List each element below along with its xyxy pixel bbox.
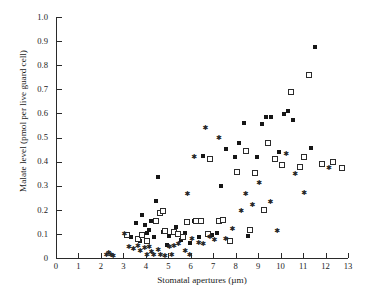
y-axis-title: Malate level (pmol per live guard cell) <box>18 16 28 226</box>
y-tick-label: 0 <box>22 254 48 263</box>
x-tick-mark <box>348 253 349 258</box>
x-tick-mark <box>78 253 79 258</box>
data-point-open-square <box>279 162 285 168</box>
data-point-star: ✱ <box>200 241 207 248</box>
x-tick-label: 9 <box>246 262 270 271</box>
data-point-open-square <box>319 161 325 167</box>
data-point-star: ✱ <box>222 236 229 243</box>
y-tick-label: 0.1 <box>22 230 48 239</box>
x-axis-title: Stomatal apertures (µm) <box>56 275 348 285</box>
y-tick-mark <box>57 41 62 42</box>
scatter-plot-figure: 00.10.20.30.40.50.60.70.80.91.0 01234567… <box>0 0 365 295</box>
data-point-open-square <box>261 207 267 213</box>
data-point-filled-square <box>282 112 286 116</box>
data-point-star: ✱ <box>267 199 274 206</box>
data-point-star: ✱ <box>229 226 236 233</box>
y-tick-mark <box>57 65 62 66</box>
data-point-filled-square <box>237 141 241 145</box>
y-tick-mark <box>57 258 62 259</box>
data-point-filled-square <box>255 155 259 159</box>
data-point-open-square <box>198 218 204 224</box>
data-point-star: ✱ <box>191 154 198 161</box>
x-tick-label: 10 <box>269 262 293 271</box>
data-point-filled-square <box>269 115 273 119</box>
y-tick-mark <box>57 234 62 235</box>
data-point-filled-square <box>242 121 246 125</box>
data-point-filled-square <box>224 147 228 151</box>
data-point-filled-square <box>313 45 317 49</box>
data-point-filled-square <box>291 118 295 122</box>
data-point-filled-square <box>143 223 147 227</box>
y-tick-mark <box>57 210 62 211</box>
x-tick-mark <box>213 253 214 258</box>
data-point-star: ✱ <box>186 252 193 259</box>
x-tick-mark <box>281 253 282 258</box>
data-point-open-square <box>301 154 307 160</box>
data-point-star: ✱ <box>249 202 256 209</box>
data-point-filled-square <box>219 184 223 188</box>
data-point-star: ✱ <box>184 191 191 198</box>
data-point-open-square <box>180 234 186 240</box>
data-point-open-square <box>288 89 294 95</box>
data-point-star: ✱ <box>325 165 332 172</box>
x-tick-mark <box>56 253 57 258</box>
data-point-filled-square <box>140 213 144 217</box>
data-point-open-square <box>252 170 258 176</box>
y-tick-mark <box>57 138 62 139</box>
y-tick-mark <box>57 162 62 163</box>
y-tick-mark <box>57 186 62 187</box>
x-tick-mark <box>303 253 304 258</box>
data-point-open-square <box>272 156 278 162</box>
x-axis-line <box>56 258 348 259</box>
data-point-open-square <box>162 228 168 234</box>
x-tick-label: 7 <box>201 262 225 271</box>
data-point-star: ✱ <box>168 252 175 259</box>
x-tick-label: 1 <box>66 262 90 271</box>
data-point-filled-square <box>309 146 313 150</box>
data-point-star: ✱ <box>292 171 299 178</box>
x-tick-mark <box>123 253 124 258</box>
data-point-filled-square <box>286 109 290 113</box>
x-tick-label: 12 <box>314 262 338 271</box>
data-point-open-square <box>265 140 271 146</box>
data-point-star: ✱ <box>211 237 218 244</box>
data-point-filled-square <box>233 155 237 159</box>
x-tick-label: 2 <box>89 262 113 271</box>
data-point-star: ✱ <box>175 241 182 248</box>
data-point-filled-square <box>260 122 264 126</box>
x-tick-label: 5 <box>156 262 180 271</box>
data-point-open-square <box>160 208 166 214</box>
data-point-filled-square <box>147 228 151 232</box>
data-point-star: ✱ <box>242 191 249 198</box>
data-point-open-square <box>339 165 345 171</box>
data-point-filled-square <box>154 199 158 203</box>
data-point-filled-square <box>246 234 250 238</box>
data-point-filled-square <box>277 150 281 154</box>
data-point-open-square <box>234 169 240 175</box>
data-point-filled-square <box>134 221 138 225</box>
data-point-open-square <box>247 227 253 233</box>
data-point-filled-square <box>129 235 133 239</box>
y-tick-mark <box>57 89 62 90</box>
data-point-star: ✱ <box>256 180 263 187</box>
data-point-star: ✱ <box>215 135 222 142</box>
x-tick-label: 4 <box>134 262 158 271</box>
data-point-open-square <box>153 218 159 224</box>
x-tick-label: 6 <box>179 262 203 271</box>
x-tick-label: 11 <box>291 262 315 271</box>
data-point-star: ✱ <box>274 228 281 235</box>
x-tick-label: 13 <box>336 262 360 271</box>
data-point-star: ✱ <box>301 190 308 197</box>
data-point-open-square <box>243 148 249 154</box>
x-tick-label: 8 <box>224 262 248 271</box>
data-point-open-square <box>306 72 312 78</box>
data-point-filled-square <box>156 175 160 179</box>
x-tick-mark <box>236 253 237 258</box>
y-tick-mark <box>57 17 62 18</box>
data-point-star: ✱ <box>238 208 245 215</box>
data-point-star: ✱ <box>283 151 290 158</box>
x-tick-mark <box>258 253 259 258</box>
data-point-open-square <box>220 217 226 223</box>
x-tick-label: 3 <box>111 262 135 271</box>
data-point-star: ✱ <box>121 231 128 238</box>
